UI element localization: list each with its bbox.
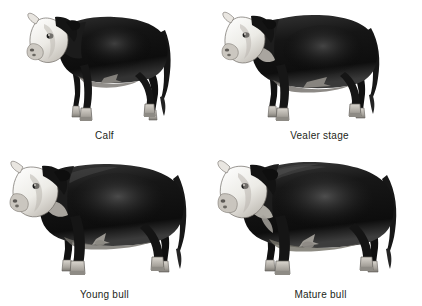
calf-illustration	[0, 0, 211, 128]
panel-vealer: Vealer stage	[211, 0, 422, 153]
cattle-grid: Calf	[0, 0, 422, 306]
panel-young-bull: Young bull	[0, 153, 211, 306]
mature-bull-illustration	[211, 153, 422, 281]
cattle-growth-stages-figure: Calf	[0, 0, 422, 306]
caption-young-bull: Young bull	[80, 289, 129, 301]
vealer-illustration	[211, 0, 422, 128]
panel-mature-bull: Mature bull	[211, 153, 422, 306]
panel-calf: Calf	[0, 0, 211, 153]
young-bull-illustration	[0, 153, 211, 281]
caption-calf: Calf	[95, 130, 114, 142]
caption-mature-bull: Mature bull	[294, 289, 346, 301]
caption-vealer: Vealer stage	[290, 130, 349, 142]
